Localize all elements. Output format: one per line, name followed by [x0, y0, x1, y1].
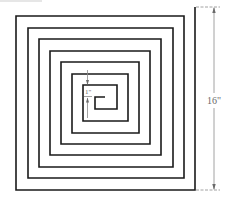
overall-dimension-label: 16" — [207, 95, 221, 106]
square-spiral-diagram: 16" 1" — [0, 0, 233, 201]
spacing-dimension-label: 1" — [85, 88, 92, 96]
arrow-down-icon — [212, 184, 215, 190]
spiral-path — [16, 7, 195, 190]
arrow-up-icon — [212, 7, 215, 13]
arrow-up-icon — [86, 98, 89, 103]
